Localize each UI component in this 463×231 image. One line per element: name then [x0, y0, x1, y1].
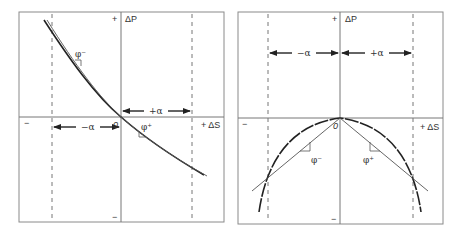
- left-y-axis-label: ΔP: [125, 14, 137, 24]
- left-panel: + ΔP − − + ΔS 0 +α −α φ⁻ φ⁺: [19, 12, 224, 222]
- left-origin-label: 0: [113, 120, 118, 130]
- right-y-minus-sign: −: [331, 214, 336, 224]
- left-y-minus-sign: −: [112, 212, 117, 222]
- right-phi-minus-label: φ⁻: [311, 155, 322, 165]
- right-origin-label: 0: [333, 121, 338, 131]
- right-phi-plus-label: φ⁺: [363, 155, 374, 165]
- right-y-plus-sign: +: [332, 14, 337, 24]
- left-phi-minus-label: φ⁻: [75, 49, 86, 59]
- right-plus-alpha-label: +α: [370, 48, 384, 58]
- right-secant-left: [252, 118, 340, 191]
- left-x-axis-label: + ΔS: [201, 120, 220, 130]
- right-x-axis-label: + ΔS: [420, 122, 439, 132]
- left-plus-alpha-label: +α: [149, 106, 163, 116]
- diagram-canvas: + ΔP − − + ΔS 0 +α −α φ⁻ φ⁺ + Δ: [0, 0, 463, 231]
- right-panel: + ΔP − − + ΔS 0 −α +α φ⁻ φ⁺: [238, 12, 443, 224]
- left-x-minus-sign: −: [24, 118, 29, 128]
- left-chord: [47, 20, 207, 176]
- right-y-axis-label: ΔP: [345, 14, 357, 24]
- right-secant-right: [340, 118, 428, 191]
- right-x-minus-sign: −: [242, 119, 247, 129]
- left-minus-alpha-label: −α: [81, 122, 95, 132]
- right-minus-alpha-label: −α: [297, 48, 311, 58]
- left-curve: [44, 20, 204, 175]
- left-phi-plus-label: φ⁺: [141, 122, 152, 132]
- left-y-plus-sign: +: [112, 14, 117, 24]
